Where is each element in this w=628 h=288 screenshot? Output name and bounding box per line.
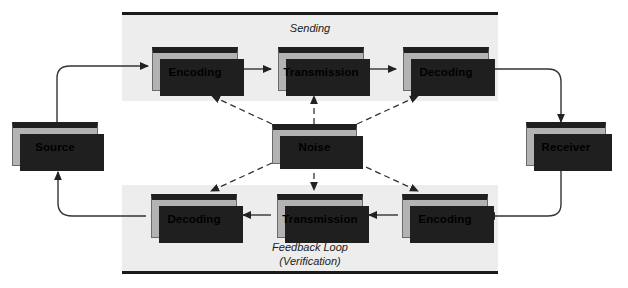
box-sending-decoding-label: Decoding — [419, 66, 472, 78]
box-feedback-decoding-label: Decoding — [167, 213, 220, 225]
box-noise[interactable]: Noise — [272, 124, 357, 164]
box-receiver-label: Receiver — [542, 141, 591, 153]
feedback-panel-label-line2: (Verification) — [122, 255, 498, 267]
box-source-label: Source — [35, 141, 75, 153]
box-feedback-decoding[interactable]: Decoding — [151, 194, 237, 238]
box-receiver[interactable]: Receiver — [526, 122, 606, 166]
feedback-panel-label-line1: Feedback Loop — [122, 241, 498, 253]
box-sending-transmission-label: Transmission — [283, 66, 358, 78]
box-sending-encoding-label: Encoding — [168, 66, 221, 78]
box-sending-encoding[interactable]: Encoding — [152, 47, 238, 91]
box-feedback-transmission-label: Transmission — [282, 213, 357, 225]
sending-panel-label: Sending — [122, 22, 498, 34]
box-source[interactable]: Source — [12, 122, 98, 166]
noise-arrow-to-bottom-decoding — [211, 163, 272, 191]
box-sending-transmission[interactable]: Transmission — [278, 47, 364, 91]
communication-model-diagram: Encoding Transmission Decoding Decoding … — [0, 0, 628, 288]
box-sending-decoding[interactable]: Decoding — [403, 47, 489, 91]
box-feedback-transmission[interactable]: Transmission — [277, 194, 363, 238]
box-noise-label: Noise — [299, 141, 331, 153]
noise-arrow-to-bottom-encoding — [357, 163, 418, 191]
path-source-to-encoding — [57, 66, 148, 124]
noise-arrow-to-top-encoding — [212, 96, 272, 124]
noise-arrow-to-top-decoding — [357, 96, 418, 124]
box-feedback-encoding[interactable]: Encoding — [402, 194, 488, 238]
box-feedback-encoding-label: Encoding — [418, 213, 471, 225]
path-receiver-to-encoding — [487, 168, 561, 216]
path-decoding-to-source — [58, 172, 146, 216]
